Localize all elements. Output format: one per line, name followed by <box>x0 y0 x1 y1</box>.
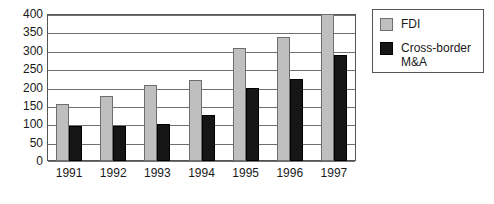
y-axis-tick-label: 200 <box>0 82 43 94</box>
bar-chart: 050100150200250300350400 199119921993199… <box>0 0 494 204</box>
black-swatch-icon <box>380 42 393 55</box>
legend-item-fdi: FDI <box>380 17 420 31</box>
x-axis-tick-labels: 1991199219931994199519961997 <box>47 166 356 186</box>
gridlines <box>48 15 355 160</box>
x-axis-tick-label: 1996 <box>268 166 312 180</box>
gridline <box>48 89 355 90</box>
x-axis-tick-label: 1992 <box>91 166 135 180</box>
x-axis-tick-label: 1994 <box>179 166 223 180</box>
x-axis-tick-label: 1995 <box>224 166 268 180</box>
legend-item-label: FDI <box>401 17 420 31</box>
x-axis-tick-label: 1997 <box>312 166 356 180</box>
y-axis-tick-label: 300 <box>0 45 43 57</box>
gray-swatch-icon <box>380 18 393 31</box>
y-axis-tick-label: 0 <box>0 155 43 167</box>
gridline <box>48 107 355 108</box>
y-axis-tick-label: 400 <box>0 8 43 20</box>
legend-item-cross-border-ma: Cross-border M&A <box>380 41 479 69</box>
plot-area <box>47 14 356 161</box>
x-axis-tick-label: 1991 <box>47 166 91 180</box>
legend-item-label: Cross-border M&A <box>401 41 479 69</box>
gridline <box>48 33 355 34</box>
y-axis-tick-label: 250 <box>0 63 43 75</box>
legend: FDI Cross-border M&A <box>372 9 484 73</box>
gridline <box>48 144 355 145</box>
y-axis-tick-label: 100 <box>0 118 43 130</box>
y-axis-tick-label: 350 <box>0 26 43 38</box>
gridline <box>48 15 355 16</box>
gridline <box>48 52 355 53</box>
gridline <box>48 70 355 71</box>
y-axis-tick-labels: 050100150200250300350400 <box>0 14 43 161</box>
y-axis-tick-label: 150 <box>0 100 43 112</box>
y-axis-tick-label: 50 <box>0 137 43 149</box>
x-axis-tick-label: 1993 <box>135 166 179 180</box>
gridline <box>48 125 355 126</box>
gridline <box>48 161 355 162</box>
